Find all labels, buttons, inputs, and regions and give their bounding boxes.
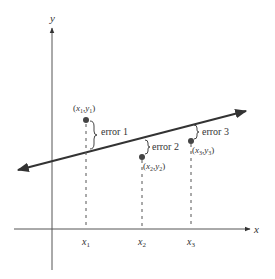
point-label-1: (x1,y1) (73, 103, 95, 114)
error-brace-3 (194, 125, 199, 139)
x-tick-label-1: x1 (81, 236, 90, 249)
y-axis-label: y (49, 12, 55, 24)
error-brace-1 (90, 121, 97, 149)
error-label-2: error 2 (152, 141, 179, 152)
point-label-2: (x2,y2) (143, 161, 165, 172)
error-brace-2 (145, 140, 150, 154)
x-tick-label-3: x3 (186, 236, 195, 249)
point-label-3: (x3,y3) (192, 145, 214, 156)
error-label-1: error 1 (101, 126, 128, 137)
error-label-3: error 3 (202, 126, 229, 137)
data-point-2 (139, 154, 145, 160)
data-point-1 (83, 117, 89, 123)
regression-diagram: y x (x1,y1) (x2,y2) (x3,y3) error 1 erro… (0, 0, 275, 279)
data-point-3 (188, 138, 194, 144)
x-axis-label: x (253, 223, 259, 235)
x-tick-label-2: x2 (137, 236, 146, 249)
